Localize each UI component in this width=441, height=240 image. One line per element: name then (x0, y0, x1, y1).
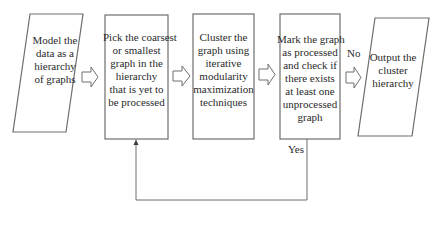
text-line: graph using (191, 44, 256, 57)
text-line: or smallest (103, 44, 170, 57)
text-line: cluster (362, 64, 424, 77)
block-arrow-2-icon (173, 66, 190, 86)
text-line: Model the (20, 34, 90, 47)
text-line: graph in the (103, 57, 170, 70)
text-line: modularity (191, 70, 256, 83)
feedback-loop-line (136, 139, 307, 200)
text-line: Mark the graph (277, 33, 343, 46)
edge-label-yes: Yes (288, 143, 304, 155)
edge-label-no: No (347, 47, 360, 59)
node-mark-check-text: Mark the graph as processed and check if… (277, 33, 343, 124)
text-line: graph (277, 111, 343, 124)
text-line: at least one (277, 85, 343, 98)
text-line: hierarchy (362, 77, 424, 90)
text-line: Cluster the (191, 31, 256, 44)
text-line: techniques (191, 96, 256, 109)
text-line: maximization (191, 83, 256, 96)
text-line: hierarchy (20, 60, 90, 73)
text-line: and check if (277, 59, 343, 72)
node-cluster-graph-text: Cluster the graph using iterative modula… (191, 31, 256, 109)
text-line: that is yet to (103, 83, 170, 96)
node-pick-graph-text: Pick the coarsest or smallest graph in t… (103, 31, 170, 109)
text-line: iterative (191, 57, 256, 70)
text-line: Pick the coarsest (103, 31, 170, 44)
text-line: of graphs (20, 73, 90, 86)
node-output-hierarchy-text: Output the cluster hierarchy (362, 51, 424, 90)
text-line: Output the (362, 51, 424, 64)
arrowhead-up-icon (134, 140, 139, 146)
node-model-data-text: Model the data as a hierarchy of graphs (20, 34, 90, 86)
text-line: data as a (20, 47, 90, 60)
block-arrow-4-icon (346, 67, 361, 88)
text-line: be processed (103, 96, 170, 109)
text-line: there exists (277, 72, 343, 85)
text-line: unprocessed (277, 98, 343, 111)
block-arrow-3-icon (259, 64, 275, 85)
text-line: hierarchy (103, 70, 170, 83)
text-line: as processed (277, 46, 343, 59)
